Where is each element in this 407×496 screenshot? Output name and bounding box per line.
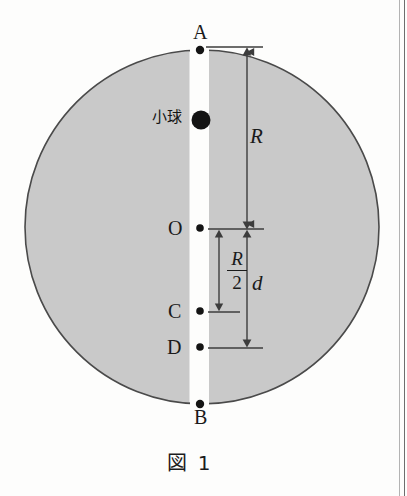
dimension-arrowhead-R-top bbox=[243, 47, 252, 55]
fraction-numerator: R bbox=[226, 249, 248, 268]
point-A-dot bbox=[196, 46, 204, 54]
ball-dot bbox=[192, 111, 211, 130]
point-label-B: B bbox=[194, 407, 207, 427]
ball-label: 小球 bbox=[152, 110, 182, 125]
radius-label: R bbox=[250, 126, 263, 147]
point-label-D: D bbox=[167, 337, 181, 357]
point-O-dot bbox=[196, 224, 204, 232]
half-radius-fraction: R 2 bbox=[226, 249, 248, 292]
fraction-bar bbox=[227, 270, 247, 271]
point-label-A: A bbox=[193, 22, 207, 42]
figure-panel: A B O C D 小球 R d R 2 図 1 bbox=[0, 0, 407, 496]
page-rule-inner bbox=[399, 0, 400, 496]
point-D-dot bbox=[196, 343, 204, 351]
fraction-denominator: 2 bbox=[226, 273, 248, 292]
page-rule-outer bbox=[404, 0, 405, 496]
distance-label: d bbox=[252, 273, 263, 294]
point-C-dot bbox=[196, 307, 204, 315]
point-label-O: O bbox=[168, 218, 182, 238]
figure-caption: 図 1 bbox=[0, 447, 380, 476]
point-label-C: C bbox=[168, 301, 181, 321]
